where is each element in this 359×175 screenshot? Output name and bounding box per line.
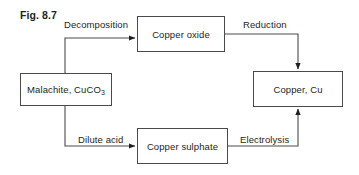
node-copper: Copper, Cu: [253, 71, 343, 107]
node-copper-oxide: Copper oxide: [137, 16, 225, 52]
node-copper-sulphate: Copper sulphate: [137, 128, 228, 164]
edge-reduction-path: [225, 34, 298, 69]
figure-container: Fig. 8.7 Malachite, CuCO3 Copper oxide C…: [0, 0, 359, 175]
node-malachite-subscript: 3: [101, 89, 105, 96]
edge-label-decomposition: Decomposition: [64, 19, 128, 30]
node-malachite-label: Malachite, CuCO3: [27, 84, 105, 95]
figure-label: Fig. 8.7: [20, 9, 57, 21]
edge-decomposition-path: [65, 38, 135, 73]
node-copper-oxide-label: Copper oxide: [152, 29, 210, 40]
node-malachite: Malachite, CuCO3: [20, 73, 112, 106]
edge-label-electrolysis: Electrolysis: [240, 134, 289, 145]
node-copper-sulphate-label: Copper sulphate: [147, 141, 218, 152]
edge-label-dilute-acid: Dilute acid: [78, 134, 123, 145]
node-copper-label: Copper, Cu: [273, 84, 322, 95]
edge-label-reduction: Reduction: [243, 19, 287, 30]
